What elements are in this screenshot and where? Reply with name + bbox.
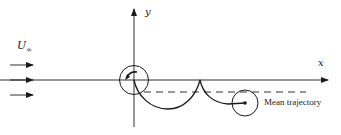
x-axis-label: x xyxy=(318,57,324,68)
mean-trajectory-label: Mean trajectory xyxy=(264,97,321,107)
particle-trajectory xyxy=(134,80,245,109)
end-point-dot xyxy=(243,101,247,105)
freestream-arrows xyxy=(10,65,33,95)
y-axis-label: y xyxy=(145,6,151,17)
freestream-symbol: U xyxy=(17,39,26,52)
freestream-velocity-label: U∞ xyxy=(17,39,32,54)
freestream-subscript: ∞ xyxy=(26,46,32,54)
trajectory-diagram xyxy=(0,0,341,135)
